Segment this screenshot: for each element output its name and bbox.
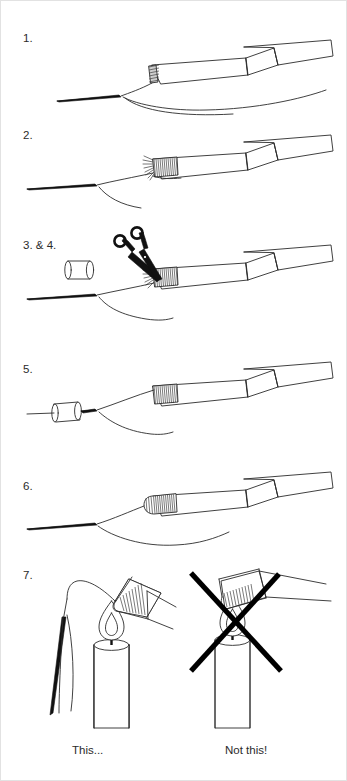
- frayed-thread-ends-2: [143, 156, 154, 180]
- candle-incorrect: [215, 635, 250, 728]
- candle-incorrect-scene: [191, 569, 331, 728]
- step-7-label: 7.: [23, 569, 33, 581]
- scissors-icon: [114, 227, 162, 282]
- thread-whipping-6: [144, 494, 177, 514]
- ribbon-strip-6: [153, 472, 333, 516]
- step-3-4-group: 3. & 4.: [23, 227, 333, 320]
- fishing-line-1: [57, 83, 326, 115]
- caption-correct: This...: [72, 744, 103, 756]
- fishing-line-2: [27, 173, 181, 208]
- instruction-sheet: 1.: [0, 0, 347, 781]
- step-6-group: 6.: [23, 472, 333, 545]
- ribbon-strip-1: [152, 40, 333, 84]
- ribbon-strip-3: [153, 245, 333, 289]
- caption-incorrect: Not this!: [225, 744, 267, 756]
- step-6-label: 6.: [23, 480, 33, 492]
- step-3-4-label: 3. & 4.: [23, 239, 56, 251]
- step-1-group: 1.: [23, 32, 333, 115]
- step-1-label: 1.: [23, 32, 33, 44]
- ribbon-strip-5: [153, 362, 333, 406]
- candle-correct-scene: [50, 577, 176, 728]
- thread-whipping-2: [153, 157, 178, 177]
- step-5-group: 5.: [23, 362, 333, 434]
- diagram-canvas: 1.: [1, 1, 347, 781]
- step-2-label: 2.: [23, 129, 33, 141]
- fishing-line-3: [27, 283, 173, 320]
- step-5-label: 5.: [23, 363, 33, 375]
- thread-whipping-5: [153, 384, 178, 404]
- step-7-group: 7.: [23, 569, 331, 756]
- fishing-line-5: [27, 390, 173, 434]
- ribbon-strip-2: [153, 135, 333, 179]
- ferrule-tube-3: [65, 261, 94, 279]
- candle-correct: [94, 640, 129, 728]
- ferrule-on-line-5: [52, 402, 82, 422]
- step-2-group: 2.: [23, 129, 333, 208]
